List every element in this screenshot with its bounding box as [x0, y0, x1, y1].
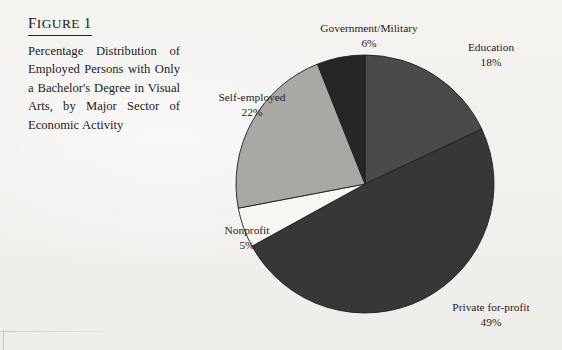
- pie-label-education: Education 18%: [452, 40, 530, 70]
- pie-label-education-name: Education: [468, 41, 514, 53]
- pie-label-government-military-value: 6%: [307, 36, 431, 51]
- pie-label-nonprofit: Nonprofit 5%: [209, 223, 285, 253]
- pie-label-nonprofit-value: 5%: [209, 238, 285, 253]
- pie-label-government-military-name: Government/Military: [320, 22, 417, 34]
- pie-label-private-for-profit-value: 49%: [432, 315, 550, 330]
- scan-edge-line-bottom: [0, 331, 120, 332]
- figure-label-number: 1: [84, 15, 92, 31]
- pie-label-private-for-profit: Private for-profit 49%: [432, 300, 550, 330]
- pie-label-self-employed-value: 22%: [203, 105, 301, 120]
- pie-label-government-military: Government/Military 6%: [307, 21, 431, 51]
- scan-edge-line-left: [3, 330, 4, 350]
- pie-label-nonprofit-name: Nonprofit: [225, 224, 270, 236]
- figure-label-word: IGURE: [37, 16, 80, 31]
- pie-label-self-employed: Self-employed 22%: [203, 90, 301, 120]
- pie-label-education-value: 18%: [452, 55, 530, 70]
- figure-caption-block: FIGURE 1 Percentage Distribution of Empl…: [28, 14, 180, 134]
- figure-label-initial: F: [28, 15, 37, 31]
- figure-caption-text: Percentage Distribution of Employed Pers…: [28, 42, 180, 135]
- figure-label: FIGURE 1: [28, 14, 92, 36]
- pie-label-private-for-profit-name: Private for-profit: [452, 301, 529, 313]
- pie-label-self-employed-name: Self-employed: [218, 91, 285, 103]
